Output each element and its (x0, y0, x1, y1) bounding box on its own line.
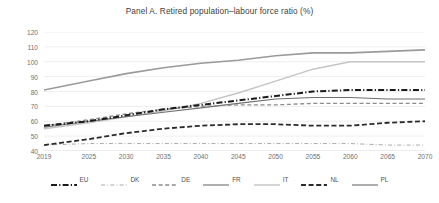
legend-swatch-icon (352, 175, 378, 183)
legend-swatch-icon (51, 175, 77, 183)
y-tick-label: 90 (31, 73, 38, 80)
legend-swatch-icon (203, 175, 229, 183)
x-tick-label: 2030 (119, 153, 134, 160)
legend-swatch-icon (152, 175, 178, 183)
legend-item-eu[interactable]: EU (51, 175, 89, 183)
x-tick-label: 2025 (81, 153, 96, 160)
x-tick-label: 2019 (37, 153, 52, 160)
series-line-fr (44, 97, 425, 127)
x-axis-labels: 2019202520302035204020452050205520602065… (44, 153, 425, 165)
legend-item-de[interactable]: DE (152, 175, 190, 183)
legend-item-it[interactable]: IT (254, 175, 289, 183)
y-axis-labels: 405060708090100110120 (0, 32, 40, 151)
chart-panel: Panel A. Retired population–labour force… (0, 0, 439, 203)
x-tick-label: 2065 (380, 153, 395, 160)
y-tick-label: 120 (27, 29, 38, 36)
legend-label: EU (80, 176, 89, 183)
series-line-nl (44, 121, 425, 145)
legend-label: IT (283, 176, 289, 183)
x-tick-label: 2050 (268, 153, 283, 160)
legend-label: DK (130, 176, 139, 183)
legend-item-pl[interactable]: PL (352, 175, 389, 183)
legend-item-fr[interactable]: FR (203, 175, 241, 183)
chart-legend: EUDKDEFRITNLPL (0, 172, 439, 186)
plot-area (44, 32, 425, 151)
x-tick-label: 2055 (306, 153, 321, 160)
legend-label: DE (181, 176, 190, 183)
legend-label: FR (232, 176, 241, 183)
x-tick-label: 2040 (194, 153, 209, 160)
series-line-it (44, 62, 425, 129)
y-tick-label: 70 (31, 103, 38, 110)
chart-svg (44, 32, 425, 151)
y-tick-label: 100 (27, 58, 38, 65)
x-tick-label: 2070 (418, 153, 433, 160)
series-line-de (44, 103, 425, 125)
x-tick-label: 2060 (343, 153, 358, 160)
legend-label: NL (330, 176, 338, 183)
x-tick-label: 2045 (231, 153, 246, 160)
legend-item-nl[interactable]: NL (301, 175, 338, 183)
series-line-dk (44, 144, 425, 145)
legend-label: PL (381, 176, 389, 183)
y-tick-label: 80 (31, 88, 38, 95)
legend-item-dk[interactable]: DK (101, 175, 139, 183)
legend-swatch-icon (301, 175, 327, 183)
y-tick-label: 60 (31, 118, 38, 125)
legend-swatch-icon (101, 175, 127, 183)
chart-title: Panel A. Retired population–labour force… (0, 6, 439, 16)
x-tick-label: 2035 (156, 153, 171, 160)
y-tick-label: 110 (27, 43, 38, 50)
series-line-pl (44, 50, 425, 90)
legend-swatch-icon (254, 175, 280, 183)
y-tick-label: 50 (31, 133, 38, 140)
